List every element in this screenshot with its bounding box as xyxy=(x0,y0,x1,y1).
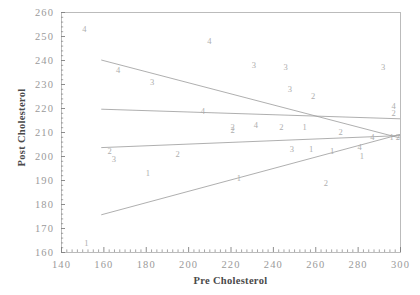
y-axis-tick-label: 220 xyxy=(35,103,54,114)
y-axis-title: Post Cholesterol xyxy=(16,63,27,193)
data-point-label: 1 xyxy=(309,144,313,154)
chart-canvas: 1601701801902002102202302402502601401601… xyxy=(0,0,420,295)
scatter-plot: 1601701801902002102202302402502601401601… xyxy=(0,0,420,295)
x-axis-tick-label: 240 xyxy=(264,259,283,270)
y-axis-tick-label: 170 xyxy=(35,223,54,234)
line-group-b xyxy=(101,109,400,119)
data-point-label: 3 xyxy=(252,60,256,70)
data-point-label: 4 xyxy=(201,106,206,116)
y-axis-tick-label: 250 xyxy=(35,31,54,42)
data-point-label: 1 xyxy=(389,132,393,142)
data-point-label: 4 xyxy=(358,142,363,152)
data-point-label: 1 xyxy=(303,122,307,132)
data-point-label: 4 xyxy=(82,24,87,34)
y-axis-tick-label: 240 xyxy=(35,55,54,66)
x-axis-tick-label: 200 xyxy=(179,259,198,270)
y-axis-tick-label: 190 xyxy=(35,175,54,186)
x-axis-tick-label: 180 xyxy=(137,259,156,270)
y-axis-tick-label: 200 xyxy=(35,151,54,162)
x-axis-tick-label: 220 xyxy=(221,259,240,270)
data-point-label: 1 xyxy=(146,168,150,178)
data-point-label: 1 xyxy=(330,146,334,156)
data-point-label: 2 xyxy=(230,125,234,135)
y-axis-tick-label: 210 xyxy=(35,127,54,138)
line-group-a xyxy=(101,60,400,138)
data-point-label: 3 xyxy=(381,62,385,72)
data-point-label: 4 xyxy=(254,120,259,130)
y-axis-tick-label: 260 xyxy=(35,7,54,18)
data-point-label: 3 xyxy=(288,84,292,94)
x-axis-tick-label: 160 xyxy=(94,259,113,270)
y-axis-tick-label: 180 xyxy=(35,199,54,210)
data-point-label: 2 xyxy=(392,108,396,118)
data-point-label: 2 xyxy=(279,122,283,132)
x-axis-tick-label: 260 xyxy=(306,259,325,270)
data-point-label: 2 xyxy=(396,132,400,142)
data-point-label: 3 xyxy=(283,62,287,72)
data-point-label: 2 xyxy=(175,149,179,159)
x-axis-tick-label: 280 xyxy=(349,259,368,270)
y-axis-tick-label: 160 xyxy=(35,247,54,258)
data-point-label: 1 xyxy=(237,173,241,183)
data-point-label: 2 xyxy=(324,178,328,188)
data-point-label: 3 xyxy=(290,144,294,154)
x-axis-tick-label: 300 xyxy=(391,259,410,270)
data-point-label: 4 xyxy=(370,132,375,142)
data-point-label: 2 xyxy=(311,91,315,101)
x-axis-tick-label: 140 xyxy=(52,259,71,270)
data-point-label: 1 xyxy=(360,151,364,161)
data-point-label: 1 xyxy=(84,238,88,248)
x-axis-title: Pre Cholesterol xyxy=(61,275,400,286)
y-axis-tick-label: 230 xyxy=(35,79,54,90)
data-point-label: 3 xyxy=(112,154,116,164)
data-point-label: 3 xyxy=(150,77,154,87)
data-point-label: 4 xyxy=(116,65,121,75)
data-point-label: 4 xyxy=(207,36,212,46)
line-group-c xyxy=(101,136,400,148)
data-point-label: 2 xyxy=(339,127,343,137)
